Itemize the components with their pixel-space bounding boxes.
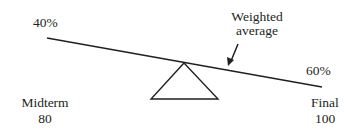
left-weight-label: 40% (33, 15, 58, 31)
weighted-average-line2: average (222, 23, 292, 39)
right-weight-label: 60% (306, 63, 331, 79)
midterm-score: 80 (15, 111, 75, 127)
final-score: 100 (305, 111, 344, 127)
midterm-name: Midterm (15, 95, 75, 111)
weighted-average-label: Weighted average (222, 9, 292, 39)
final-label: Final 100 (305, 95, 344, 127)
seesaw-beam (47, 38, 322, 87)
weighted-average-arrow-icon (227, 44, 238, 66)
final-name: Final (305, 95, 344, 111)
midterm-label: Midterm 80 (15, 95, 75, 127)
fulcrum-triangle-icon (151, 63, 218, 99)
